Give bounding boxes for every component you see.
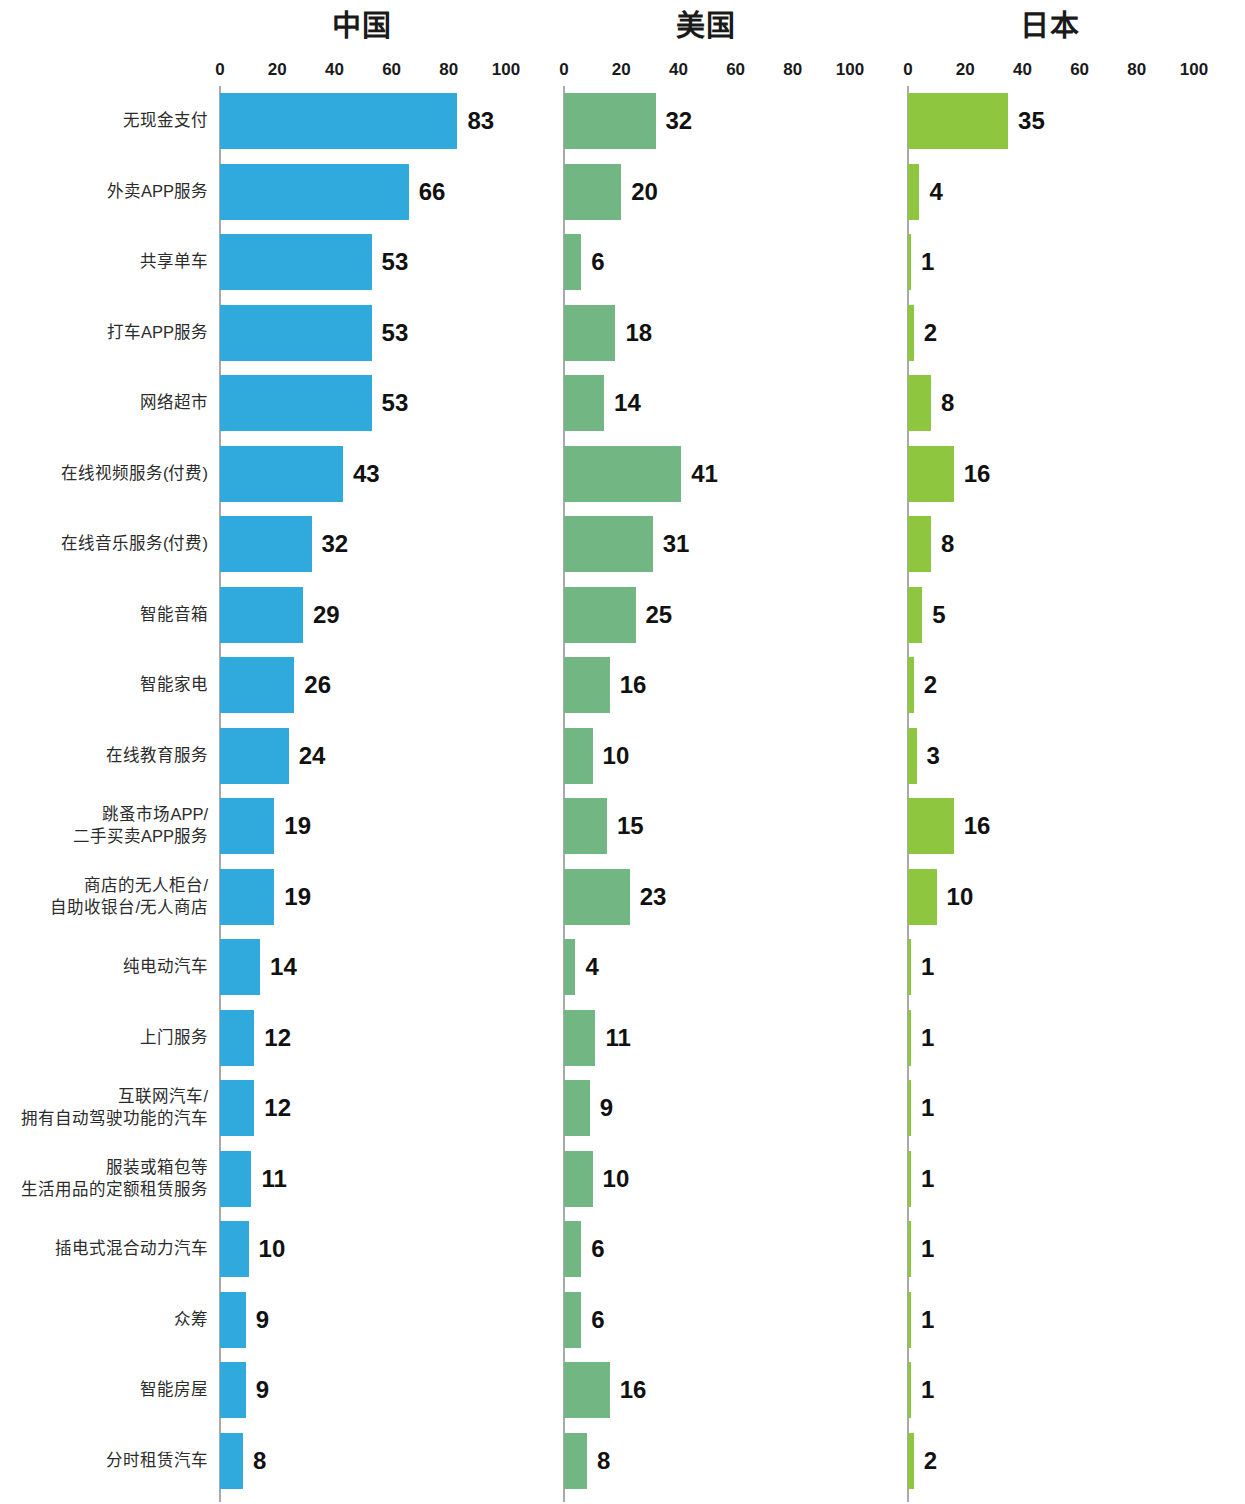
bar-japan[interactable] <box>908 516 931 572</box>
bar-usa[interactable] <box>564 1080 590 1136</box>
bar-china[interactable] <box>220 1362 246 1418</box>
bar-china[interactable] <box>220 446 343 502</box>
x-tick-usa-20: 20 <box>612 60 631 80</box>
chart-row: 网络超市53148 <box>0 368 1245 439</box>
bar-value-usa: 16 <box>620 671 647 699</box>
bar-usa[interactable] <box>564 939 575 995</box>
bar-japan[interactable] <box>908 1362 911 1418</box>
bar-japan[interactable] <box>908 1433 914 1489</box>
bar-value-china: 19 <box>284 883 311 911</box>
bar-china[interactable] <box>220 516 312 572</box>
bar-usa[interactable] <box>564 1221 581 1277</box>
bar-usa[interactable] <box>564 516 653 572</box>
x-tick-usa-0: 0 <box>559 60 568 80</box>
bar-china[interactable] <box>220 164 409 220</box>
bar-value-japan: 3 <box>927 742 940 770</box>
bar-usa[interactable] <box>564 164 621 220</box>
x-tick-china-60: 60 <box>382 60 401 80</box>
category-label: 商店的无人柜台/ 自助收银台/无人商店 <box>0 875 208 919</box>
bar-usa[interactable] <box>564 93 656 149</box>
bar-china[interactable] <box>220 1221 249 1277</box>
bar-china[interactable] <box>220 1080 254 1136</box>
bar-japan[interactable] <box>908 93 1008 149</box>
bar-china[interactable] <box>220 234 372 290</box>
bar-japan[interactable] <box>908 164 919 220</box>
category-label: 互联网汽车/ 拥有自动驾驶功能的汽车 <box>0 1086 208 1130</box>
bar-value-usa: 8 <box>597 1447 610 1475</box>
bar-value-china: 53 <box>382 248 409 276</box>
chart-row: 共享单车5361 <box>0 227 1245 298</box>
bar-japan[interactable] <box>908 1221 911 1277</box>
bar-china[interactable] <box>220 1151 251 1207</box>
category-label: 在线视频服务(付费) <box>0 463 208 485</box>
bar-usa[interactable] <box>564 234 581 290</box>
bar-japan[interactable] <box>908 728 917 784</box>
bar-value-usa: 6 <box>591 248 604 276</box>
bar-japan[interactable] <box>908 657 914 713</box>
bar-japan[interactable] <box>908 1010 911 1066</box>
bar-value-japan: 16 <box>964 812 991 840</box>
bar-japan[interactable] <box>908 1080 911 1136</box>
bar-china[interactable] <box>220 305 372 361</box>
bar-value-china: 24 <box>299 742 326 770</box>
chart-row: 上门服务12111 <box>0 1003 1245 1074</box>
bar-usa[interactable] <box>564 587 636 643</box>
bar-china[interactable] <box>220 1010 254 1066</box>
bar-japan[interactable] <box>908 798 954 854</box>
bar-usa[interactable] <box>564 869 630 925</box>
x-tick-japan-60: 60 <box>1070 60 1089 80</box>
bar-value-usa: 14 <box>614 389 641 417</box>
bar-japan[interactable] <box>908 869 937 925</box>
bar-usa[interactable] <box>564 446 681 502</box>
bar-japan[interactable] <box>908 1292 911 1348</box>
bar-value-usa: 6 <box>591 1306 604 1334</box>
bar-usa[interactable] <box>564 728 593 784</box>
bar-japan[interactable] <box>908 234 911 290</box>
bar-value-japan: 1 <box>921 1235 934 1263</box>
bar-usa[interactable] <box>564 1151 593 1207</box>
bar-value-china: 53 <box>382 319 409 347</box>
bar-value-japan: 5 <box>932 601 945 629</box>
bar-china[interactable] <box>220 657 294 713</box>
bar-japan[interactable] <box>908 587 922 643</box>
bar-usa[interactable] <box>564 798 607 854</box>
bar-japan[interactable] <box>908 939 911 995</box>
bar-value-usa: 10 <box>603 1165 630 1193</box>
bar-usa[interactable] <box>564 1292 581 1348</box>
chart-row: 服装或箱包等 生活用品的定额租赁服务11101 <box>0 1144 1245 1215</box>
bar-usa[interactable] <box>564 657 610 713</box>
chart-row: 插电式混合动力汽车1061 <box>0 1214 1245 1285</box>
bar-value-usa: 25 <box>646 601 673 629</box>
bar-usa[interactable] <box>564 305 615 361</box>
chart-row: 纯电动汽车1441 <box>0 932 1245 1003</box>
category-label: 在线音乐服务(付费) <box>0 533 208 555</box>
bar-china[interactable] <box>220 728 289 784</box>
x-tick-usa-80: 80 <box>783 60 802 80</box>
bar-japan[interactable] <box>908 375 931 431</box>
panel-title-japan: 日本 <box>970 2 1130 44</box>
bar-japan[interactable] <box>908 446 954 502</box>
chart-row: 在线视频服务(付费)434116 <box>0 439 1245 510</box>
x-tick-usa-60: 60 <box>726 60 745 80</box>
bar-china[interactable] <box>220 587 303 643</box>
x-tick-china-0: 0 <box>215 60 224 80</box>
bar-usa[interactable] <box>564 1433 587 1489</box>
bar-china[interactable] <box>220 869 274 925</box>
x-axis-japan: 020406080100 <box>908 60 1208 82</box>
bar-usa[interactable] <box>564 1362 610 1418</box>
bar-japan[interactable] <box>908 305 914 361</box>
bar-value-usa: 4 <box>585 953 598 981</box>
bar-china[interactable] <box>220 939 260 995</box>
bar-value-japan: 2 <box>924 671 937 699</box>
bar-china[interactable] <box>220 798 274 854</box>
category-label: 智能家电 <box>0 674 208 696</box>
bar-japan[interactable] <box>908 1151 911 1207</box>
bar-usa[interactable] <box>564 1010 595 1066</box>
bar-china[interactable] <box>220 93 457 149</box>
bar-value-usa: 10 <box>603 742 630 770</box>
x-tick-japan-0: 0 <box>903 60 912 80</box>
bar-china[interactable] <box>220 375 372 431</box>
bar-china[interactable] <box>220 1433 243 1489</box>
bar-usa[interactable] <box>564 375 604 431</box>
bar-china[interactable] <box>220 1292 246 1348</box>
